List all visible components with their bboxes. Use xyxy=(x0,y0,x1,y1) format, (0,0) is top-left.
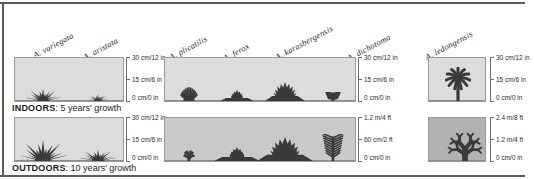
species-label-group: A. variegataA. aristataA. plicatilisA. f… xyxy=(0,0,525,58)
plant-a-ledongensis xyxy=(431,126,486,161)
scale-tick xyxy=(126,161,130,162)
scale-tick-label: 30 cm/12 in xyxy=(364,55,398,62)
scale-tick-label: 30 cm/12 in xyxy=(132,115,166,122)
outdoors-panel-2 xyxy=(164,117,356,162)
caption-text-indoors: : 5 years' growth xyxy=(55,103,121,113)
scale-tick-label: 0 cm/0 in xyxy=(364,95,390,102)
scale-tick-label: 1.2 m/4 ft xyxy=(364,115,391,122)
scale-tick-label: 0 cm/0 in xyxy=(132,95,158,102)
scale-tick-label: 1.2 m/4 ft xyxy=(496,137,523,144)
indoors-panel-1 xyxy=(14,57,124,102)
scale-tick-label: 0 cm/0 in xyxy=(496,155,522,162)
outdoors-panel-3 xyxy=(428,117,486,162)
scale-tick xyxy=(358,57,362,58)
plant-a-aristata xyxy=(87,94,109,101)
scale-tick xyxy=(126,57,130,58)
scale-tick-label: 0 cm/0 in xyxy=(132,155,158,162)
indoors-panel-3 xyxy=(428,57,486,102)
caption-indoors: INDOORS: 5 years' growth xyxy=(12,103,121,113)
species-label-a-variegata: A. variegata xyxy=(31,30,75,60)
scale-tick xyxy=(126,139,130,140)
outdoors-panel-2-scale: 1.2 m/4 ft60 cm/2 ft0 cm/0 in xyxy=(358,117,422,162)
plant-a-dichotoma xyxy=(322,134,344,161)
scale-tick-label: 15 cm/6 in xyxy=(132,77,162,84)
scale-tick xyxy=(358,139,362,140)
scale-tick xyxy=(126,79,130,80)
scale-tick xyxy=(358,117,362,118)
scale-tick-label: 0 cm/0 in xyxy=(496,95,522,102)
scale-tick-label: 60 cm/2 ft xyxy=(364,137,393,144)
plant-a-ferox xyxy=(214,146,260,161)
plant-a-ferox xyxy=(220,89,254,101)
scale-tick xyxy=(358,79,362,80)
indoors-panel-3-scale: 30 cm/12 in15 cm/6 in0 cm/0 in xyxy=(490,57,534,102)
plant-a-karasbergensis xyxy=(265,82,305,101)
plant-a-variegata xyxy=(26,88,60,101)
caption-text-outdoors: : 10 years' growth xyxy=(66,163,137,173)
scale-tick-label: 30 cm/12 in xyxy=(496,55,530,62)
scale-tick xyxy=(490,101,494,102)
scale-tick-label: 0 cm/0 in xyxy=(364,155,390,162)
outdoors-panel-1 xyxy=(14,117,124,162)
scale-tick xyxy=(358,101,362,102)
caption-outdoors: OUTDOORS: 10 years' growth xyxy=(12,163,136,173)
plant-a-plicatilis xyxy=(169,145,209,161)
row-outdoors: 30 cm/12 in15 cm/6 in0 cm/0 in1.2 m/4 ft… xyxy=(0,117,525,169)
indoors-panel-2-scale: 30 cm/12 in15 cm/6 in0 cm/0 in xyxy=(358,57,422,102)
plant-a-dichotoma xyxy=(325,92,341,101)
scale-tick xyxy=(490,139,494,140)
plant-a-variegata xyxy=(19,139,67,161)
scale-tick-label: 30 cm/12 in xyxy=(132,55,166,62)
plant-a-aristata xyxy=(80,149,116,161)
scale-tick xyxy=(490,79,494,80)
scale-tick xyxy=(490,161,494,162)
scale-tick xyxy=(358,161,362,162)
outdoors-panel-3-scale: 2.4 m/8 ft1.2 m/4 ft0 cm/0 in xyxy=(490,117,534,162)
scale-tick-label: 15 cm/6 in xyxy=(496,77,526,84)
row-indoors: 30 cm/12 in15 cm/6 in0 cm/0 in30 cm/12 i… xyxy=(0,57,525,109)
scale-tick xyxy=(126,117,130,118)
scale-tick xyxy=(126,101,130,102)
plant-a-ledongensis xyxy=(435,67,481,101)
plant-a-plicatilis xyxy=(174,87,204,101)
scale-tick-label: 15 cm/6 in xyxy=(364,77,394,84)
caption-label-outdoors: OUTDOORS xyxy=(12,163,66,173)
scale-tick-label: 2.4 m/8 ft xyxy=(496,115,523,122)
bottom-divider-rule xyxy=(0,175,525,177)
plant-a-karasbergensis xyxy=(257,137,313,161)
caption-label-indoors: INDOORS xyxy=(12,103,55,113)
scale-tick-label: 15 cm/6 in xyxy=(132,137,162,144)
scale-tick xyxy=(490,117,494,118)
scale-tick xyxy=(490,57,494,58)
indoors-panel-2 xyxy=(164,57,356,102)
